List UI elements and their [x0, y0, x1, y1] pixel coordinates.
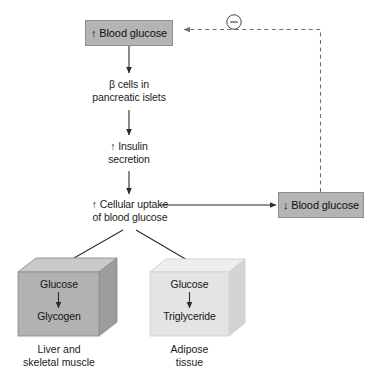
- blood-glucose-up-box-label: ↑ Blood glucose: [85, 20, 173, 46]
- beta-cells-label: β cells in pancreatic islets: [64, 78, 194, 103]
- liver-muscle-caption: Liver and skeletal muscle: [6, 343, 112, 368]
- liver-cube-substrate-label: Glucose: [20, 278, 98, 290]
- blood-glucose-down-box-label: ↓ Blood glucose: [278, 192, 364, 218]
- liver-cube-product-label: Glycogen: [20, 310, 98, 322]
- edge-negative-feedback-dashed: [184, 30, 321, 193]
- adipose-cube-product-label: Triglyceride: [146, 310, 233, 322]
- liver-muscle-cube-shape: [18, 258, 117, 336]
- diagram-canvas: ↑ Blood glucose β cells in pancreatic is…: [0, 0, 378, 378]
- negative-feedback-symbol: [227, 15, 241, 29]
- adipose-tissue-caption: Adipose tissue: [142, 343, 237, 368]
- cellular-uptake-label: ↑ Cellular uptake of blood glucose: [59, 198, 201, 223]
- adipose-cube-shape: [150, 259, 245, 336]
- adipose-cube-substrate-label: Glucose: [150, 278, 229, 290]
- insulin-secretion-label: ↑ Insulin secretion: [74, 140, 184, 165]
